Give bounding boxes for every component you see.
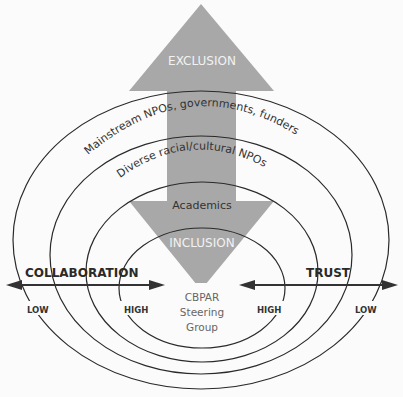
ring-third-label: Academics [172,199,232,212]
trust-high: HIGH [257,305,281,315]
collaboration-axis [6,280,165,290]
center-line1: CBPAR [185,291,220,303]
trust-title: TRUST [306,266,351,280]
exclusion-label: EXCLUSION [168,54,236,68]
left-arrow-head [239,280,255,290]
right-arrow-head [149,280,165,290]
center-line2: Steering [180,306,224,318]
up-arrow-head [129,4,274,91]
collaboration-high: HIGH [124,305,148,315]
inclusion-label: INCLUSION [169,236,234,250]
diagram-canvas: EXCLUSION INCLUSION Mainstream NPOs, gov… [0,0,403,397]
collaboration-low: LOW [27,305,49,315]
trust-axis [239,280,398,290]
left-arrow-head [6,280,22,290]
collaboration-title: COLLABORATION [25,266,138,280]
cbpar-diagram: EXCLUSION INCLUSION Mainstream NPOs, gov… [0,0,403,397]
right-arrow-head [382,280,398,290]
trust-low: LOW [355,305,377,315]
center-line3: Group [186,321,218,333]
